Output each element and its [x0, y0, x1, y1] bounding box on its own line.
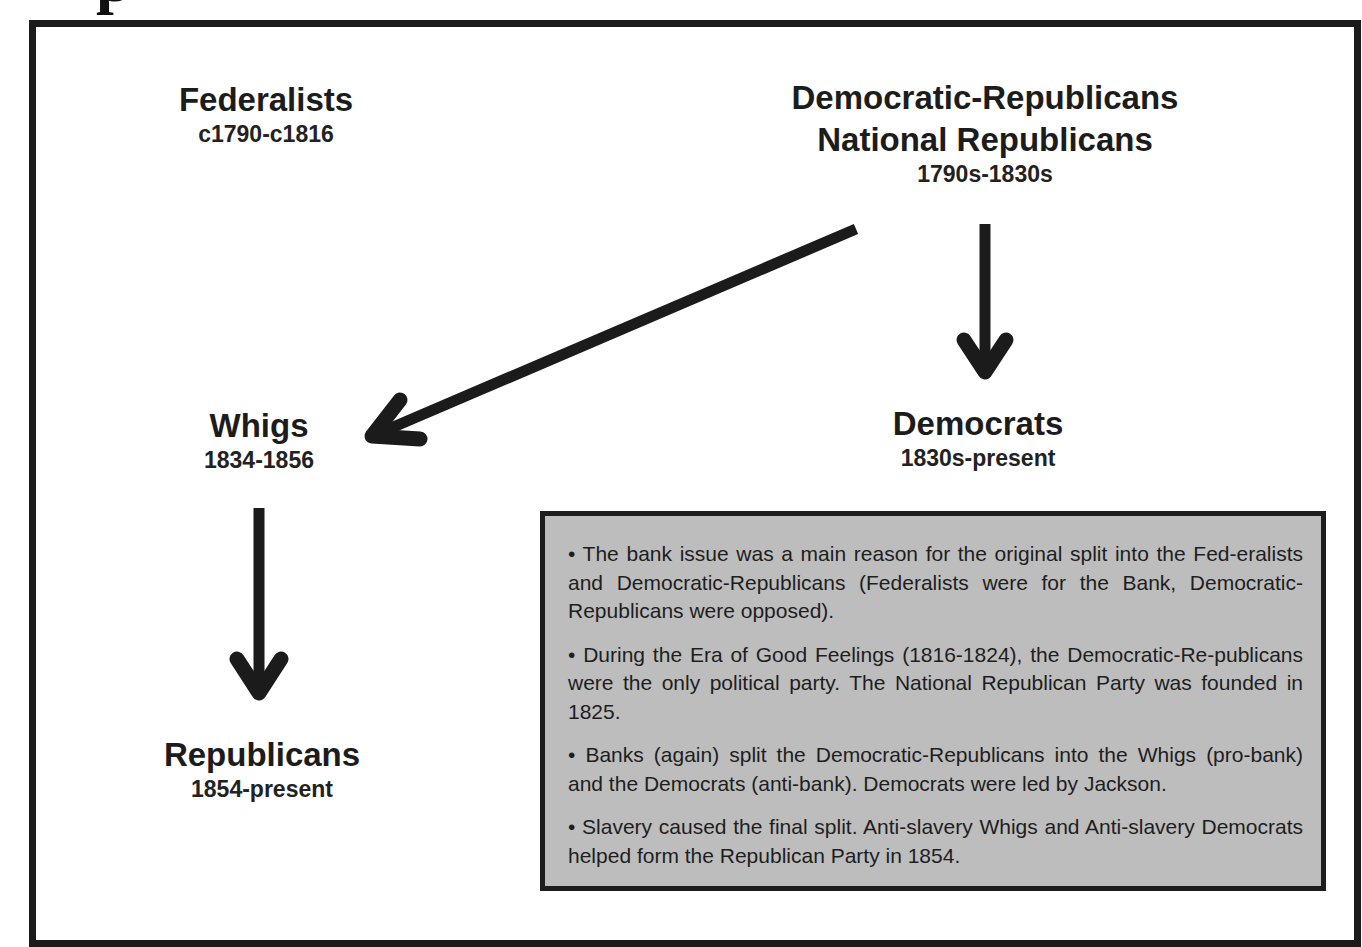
- node-republicans: Republicans 1854-present: [164, 734, 360, 802]
- node-name: Democratic-Republicans: [792, 77, 1179, 119]
- node-dates: c1790-c1816: [179, 121, 353, 147]
- page-title-fragment: p: [96, 0, 132, 12]
- node-whigs: Whigs 1834-1856: [204, 405, 314, 473]
- node-federalists: Federalists c1790-c1816: [179, 79, 353, 147]
- node-name-secondary: National Republicans: [792, 119, 1179, 161]
- node-democratic-republicans: Democratic-Republicans National Republic…: [792, 77, 1179, 187]
- node-dates: 1790s-1830s: [792, 161, 1179, 187]
- node-democrats: Democrats 1830s-present: [893, 403, 1064, 471]
- node-dates: 1830s-present: [893, 445, 1064, 471]
- node-dates: 1834-1856: [204, 447, 314, 473]
- node-dates: 1854-present: [164, 776, 360, 802]
- node-name: Federalists: [179, 79, 353, 121]
- note-era-of-good-feelings: • During the Era of Good Feelings (1816-…: [568, 641, 1303, 727]
- node-name: Republicans: [164, 734, 360, 776]
- node-name: Democrats: [893, 403, 1064, 445]
- note-banks-split: • Banks (again) split the Democratic-Rep…: [568, 741, 1303, 798]
- note-bank-issue: • The bank issue was a main reason for t…: [568, 540, 1303, 626]
- node-name: Whigs: [204, 405, 314, 447]
- notes-box: • The bank issue was a main reason for t…: [540, 511, 1326, 891]
- note-slavery-split: • Slavery caused the final split. Anti-s…: [568, 813, 1303, 870]
